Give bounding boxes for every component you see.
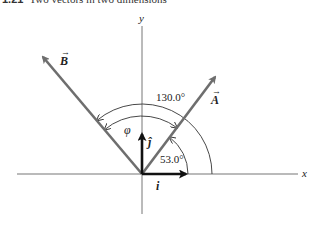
vector-b [43,57,142,174]
unit-vector-i-label: i [156,179,160,193]
vector-b-arrow-glyph: → [61,47,70,57]
vector-diagram: x y 130.0° φ 53.0° B → A → ĵ i [0,0,321,225]
vector-a-arrow-glyph: → [212,86,221,96]
angle-label-53: 53.0° [160,153,184,165]
y-axis-label: y [138,12,144,24]
unit-vector-j-label: ĵ [146,135,153,149]
angle-label-phi: φ [124,123,131,137]
angle-arc-130 [97,104,212,174]
angle-label-130: 130.0° [156,91,185,103]
x-axis-label: x [301,167,307,179]
angle-arc-phi [105,116,177,130]
